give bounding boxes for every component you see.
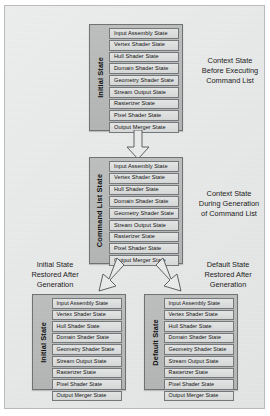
state-row-list: Input Assembly State Vertex Shader State… bbox=[107, 28, 179, 127]
caption-line: During Generation bbox=[185, 199, 270, 209]
caption-line: Context State bbox=[187, 56, 270, 66]
state-row: Hull Shader State bbox=[109, 185, 179, 196]
state-block-label-default-bottom: Default State bbox=[148, 298, 162, 386]
arrow-down-right-icon bbox=[153, 256, 187, 296]
state-row: Rasterizer State bbox=[109, 232, 179, 243]
caption-line: Context State bbox=[185, 189, 270, 199]
state-block-command-list: Command List State Input Assembly State … bbox=[89, 157, 183, 264]
state-row: Geometry Shader State bbox=[109, 208, 179, 219]
state-row: Rasterizer State bbox=[109, 99, 179, 110]
caption-context-state-before-executing: Context State Before Executing Command L… bbox=[187, 56, 270, 86]
caption-initial-state-restored: Initial State Restored After Generation bbox=[11, 260, 99, 290]
state-row: Input Assembly State bbox=[164, 298, 234, 309]
caption-line: of Command List bbox=[185, 209, 270, 219]
state-row: Stream Output State bbox=[109, 220, 179, 231]
state-row: Domain Shader State bbox=[109, 196, 179, 207]
state-block-label-initial-bottom: Initial State bbox=[36, 298, 50, 386]
state-row-list: Input Assembly State Vertex Shader State… bbox=[50, 298, 122, 386]
state-row: Domain Shader State bbox=[109, 63, 179, 74]
caption-line: Restored After bbox=[11, 270, 99, 280]
state-block-default-bottom: Default State Input Assembly State Verte… bbox=[144, 294, 238, 390]
state-row: Hull Shader State bbox=[164, 321, 234, 332]
caption-line: Before Executing bbox=[187, 66, 270, 76]
diagram-panel: Initial State Input Assembly State Verte… bbox=[4, 5, 265, 409]
state-row-list: Input Assembly State Vertex Shader State… bbox=[162, 298, 234, 386]
state-row: Geometry Shader State bbox=[52, 344, 122, 355]
state-row: Vertex Shader State bbox=[164, 310, 234, 321]
state-row: Output Merger State bbox=[164, 391, 234, 402]
state-row: Geometry Shader State bbox=[164, 344, 234, 355]
state-row: Input Assembly State bbox=[109, 28, 179, 39]
state-row: Rasterizer State bbox=[164, 368, 234, 379]
caption-default-state-restored: Default State Restored After Generation bbox=[183, 260, 270, 290]
state-row: Hull Shader State bbox=[52, 321, 122, 332]
diagram-canvas: Initial State Input Assembly State Verte… bbox=[0, 0, 270, 416]
arrow-down-icon bbox=[125, 130, 151, 160]
state-row: Domain Shader State bbox=[52, 333, 122, 344]
state-row: Domain Shader State bbox=[164, 333, 234, 344]
state-block-initial-bottom: Initial State Input Assembly State Verte… bbox=[32, 294, 126, 390]
state-row: Vertex Shader State bbox=[109, 40, 179, 51]
state-block-label-command-list: Command List State bbox=[93, 161, 107, 260]
state-block-label-initial-top: Initial State bbox=[93, 28, 107, 127]
caption-line: Generation bbox=[183, 280, 270, 290]
state-row: Hull Shader State bbox=[109, 52, 179, 63]
state-row: Pixel Shader State bbox=[109, 110, 179, 121]
caption-line: Default State bbox=[183, 260, 270, 270]
state-row: Pixel Shader State bbox=[164, 379, 234, 390]
state-row: Vertex Shader State bbox=[109, 173, 179, 184]
caption-line: Initial State bbox=[11, 260, 99, 270]
caption-context-state-during-generation: Context State During Generation of Comma… bbox=[185, 189, 270, 219]
state-row: Output Merger State bbox=[52, 391, 122, 402]
state-row: Vertex Shader State bbox=[52, 310, 122, 321]
state-row: Stream Output State bbox=[52, 356, 122, 367]
state-row: Rasterizer State bbox=[52, 368, 122, 379]
state-row: Pixel Shader State bbox=[52, 379, 122, 390]
state-row-list: Input Assembly State Vertex Shader State… bbox=[107, 161, 179, 260]
state-row: Input Assembly State bbox=[109, 161, 179, 172]
caption-line: Generation bbox=[11, 280, 99, 290]
caption-line: Restored After bbox=[183, 270, 270, 280]
caption-line: Command List bbox=[187, 76, 270, 86]
state-row: Input Assembly State bbox=[52, 298, 122, 309]
state-block-initial-top: Initial State Input Assembly State Verte… bbox=[89, 24, 183, 131]
state-row: Stream Output State bbox=[164, 356, 234, 367]
state-row: Pixel Shader State bbox=[109, 243, 179, 254]
state-row: Geometry Shader State bbox=[109, 75, 179, 86]
state-row: Stream Output State bbox=[109, 87, 179, 98]
